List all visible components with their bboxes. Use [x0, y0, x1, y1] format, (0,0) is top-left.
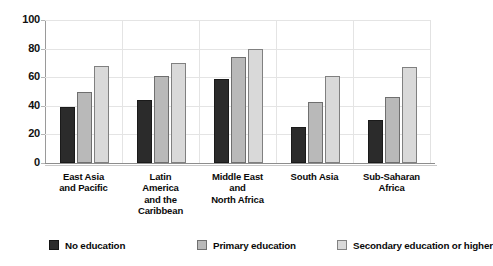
x-axis-category-label: East Asiaand Pacific — [45, 171, 122, 194]
x-axis-baseline — [45, 163, 435, 164]
category-label-line: South Asia — [276, 171, 353, 182]
category-label-line: Caribbean — [122, 205, 199, 216]
legend-swatch-icon — [337, 240, 347, 250]
legend-swatch-icon — [197, 240, 207, 250]
bar — [154, 76, 170, 163]
y-axis-tick-label: 40 — [2, 99, 40, 111]
category-label-line: Sub-Saharan — [353, 171, 430, 182]
plot-frame-right — [430, 20, 431, 163]
bar — [248, 49, 264, 163]
legend-label: Primary education — [213, 240, 296, 251]
chart-legend: No educationPrimary educationSecondary e… — [45, 238, 437, 254]
category-label-line: Middle East — [199, 171, 276, 182]
bar — [137, 100, 153, 163]
legend-label: No education — [65, 240, 125, 251]
category-label-line: East Asia — [45, 171, 122, 182]
y-axis-tick-label: 60 — [2, 70, 40, 82]
x-axis-category-label: LatinAmericaand theCaribbean — [122, 171, 199, 216]
bar-group — [199, 20, 276, 163]
category-label-line: Latin — [122, 171, 199, 182]
category-label-line: and the — [122, 194, 199, 205]
bar — [231, 57, 247, 163]
bar — [402, 67, 418, 163]
category-label-line: and Pacific — [45, 182, 122, 193]
bar-group — [45, 20, 122, 163]
y-axis-tick-label: 0 — [2, 156, 40, 168]
bar — [308, 102, 324, 163]
bar — [291, 127, 307, 163]
category-label-line: and — [199, 182, 276, 193]
bar — [94, 66, 110, 163]
bar-group — [276, 20, 353, 163]
legend-label: Secondary education or higher — [353, 240, 493, 251]
category-label-line: Africa — [353, 182, 430, 193]
y-axis-tick-label: 100 — [2, 13, 40, 25]
y-axis-tick-label: 80 — [2, 42, 40, 54]
bar — [368, 120, 384, 163]
x-axis-category-label: Middle EastandNorth Africa — [199, 171, 276, 205]
bar — [60, 107, 76, 163]
bar — [77, 92, 93, 164]
x-axis-baseline-shadow — [45, 165, 437, 166]
y-axis: 100806040200 — [0, 0, 40, 170]
category-label-line: America — [122, 182, 199, 193]
legend-item[interactable]: Primary education — [197, 238, 296, 252]
bar-group — [122, 20, 199, 163]
y-axis-tick-label: 20 — [2, 127, 40, 139]
x-axis-category-label: Sub-SaharanAfrica — [353, 171, 430, 194]
legend-item[interactable]: No education — [49, 238, 125, 252]
bar — [171, 63, 187, 163]
bar — [325, 76, 341, 163]
legend-item[interactable]: Secondary education or higher — [337, 238, 493, 252]
legend-swatch-icon — [49, 240, 59, 250]
bar — [214, 79, 230, 163]
bar-group — [353, 20, 430, 163]
x-axis-category-label: South Asia — [276, 171, 353, 182]
bar — [385, 97, 401, 163]
category-label-line: North Africa — [199, 194, 276, 205]
